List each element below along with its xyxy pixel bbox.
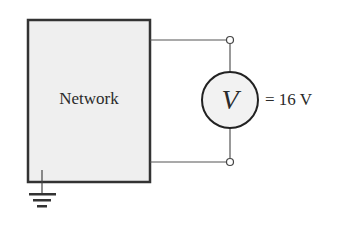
voltmeter-symbol: V xyxy=(202,84,258,116)
voltage-reading: = 16 V xyxy=(265,90,312,110)
circuit-diagram xyxy=(0,0,339,235)
bottom-terminal xyxy=(227,159,234,166)
network-label: Network xyxy=(28,89,150,109)
top-terminal xyxy=(227,37,234,44)
ground-icon xyxy=(29,193,56,208)
